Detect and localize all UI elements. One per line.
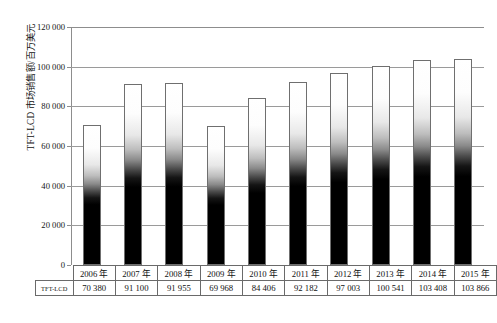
y-axis-tick-label: 80 000 <box>41 101 65 111</box>
y-axis-tick-mark <box>67 106 71 107</box>
y-axis-tick-label: 100 000 <box>37 62 65 72</box>
table-year-cell: 2013 年 <box>369 266 411 281</box>
bar <box>289 82 307 265</box>
table-year-cell: 2014 年 <box>412 266 454 281</box>
table-year-cell: 2011 年 <box>285 266 327 281</box>
plot-area: 020 00040 00060 00080 000100 000120 000 <box>71 27 484 265</box>
y-axis-tick-mark <box>67 186 71 187</box>
bar <box>83 125 101 265</box>
data-table: 2006 年2007 年2008 年2009 年2010 年2011 年2012… <box>35 265 497 296</box>
chart-figure: TFT-LCD 市场销售额/百万美元 020 00040 00060 00080… <box>0 0 497 323</box>
table-year-cell: 2015 年 <box>454 266 496 281</box>
table-year-cell: 2009 年 <box>200 266 242 281</box>
bar <box>248 98 266 265</box>
bar <box>413 60 431 265</box>
y-axis-tick-mark <box>67 67 71 68</box>
table-value-cell: 97 003 <box>327 281 369 296</box>
table-value-cell: 103 408 <box>412 281 454 296</box>
y-axis-tick-mark <box>67 27 71 28</box>
y-axis-title: TFT-LCD 市场销售额/百万美元 <box>23 0 37 187</box>
table-year-cell: 2007 年 <box>115 266 157 281</box>
table-year-cell: 2006 年 <box>73 266 115 281</box>
table-value-cell: 103 866 <box>454 281 496 296</box>
bar <box>124 84 142 265</box>
table-value-cell: 84 406 <box>242 281 284 296</box>
table-row-values: TFT-LCD 70 38091 10091 95569 96884 40692… <box>36 281 497 296</box>
table-year-cell: 2012 年 <box>327 266 369 281</box>
table-value-cell: 91 955 <box>158 281 200 296</box>
y-axis-tick-label: 40 000 <box>41 181 65 191</box>
bar <box>330 73 348 265</box>
bar <box>372 66 390 265</box>
bar <box>165 83 183 265</box>
table-row-label: TFT-LCD <box>36 281 74 296</box>
table-value-cell: 70 380 <box>73 281 115 296</box>
y-axis-tick-label: 20 000 <box>41 220 65 230</box>
y-axis-tick-mark <box>67 146 71 147</box>
table-row-years: 2006 年2007 年2008 年2009 年2010 年2011 年2012… <box>36 266 497 281</box>
table-value-cell: 100 541 <box>369 281 411 296</box>
y-axis-tick-mark <box>67 225 71 226</box>
table-value-cell: 91 100 <box>115 281 157 296</box>
table-corner-cell <box>36 266 74 281</box>
bar <box>454 59 472 265</box>
table-year-cell: 2008 年 <box>158 266 200 281</box>
table-value-cell: 92 182 <box>285 281 327 296</box>
y-axis-tick-label: 60 000 <box>41 141 65 151</box>
table-year-cell: 2010 年 <box>242 266 284 281</box>
y-axis-tick-label: 120 000 <box>37 22 65 32</box>
bar <box>207 126 225 265</box>
table-value-cell: 69 968 <box>200 281 242 296</box>
